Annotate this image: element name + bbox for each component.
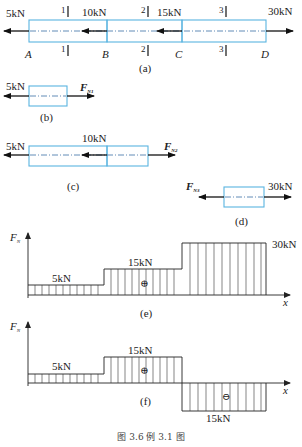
value-label: 15kN	[206, 412, 231, 424]
free-body-ab	[29, 146, 107, 166]
panel-label: (c)	[67, 180, 80, 193]
panel-label: (e)	[140, 307, 153, 320]
section-label: 3	[219, 44, 224, 54]
value-label: 5kN	[52, 360, 71, 372]
section-label: 2	[141, 44, 146, 54]
section-label: 2	[141, 5, 146, 15]
panel-label: (f)	[140, 395, 151, 408]
y-axis-label: FN	[9, 320, 21, 333]
force-label: 10kN	[82, 6, 107, 18]
free-body-bc	[107, 146, 148, 166]
value-label: 5kN	[52, 272, 71, 284]
force-label: 15kN	[157, 6, 182, 18]
panel-d: FN3 30kN (d)	[185, 180, 293, 228]
point-label-c: C	[175, 48, 183, 60]
force-label: 30kN	[268, 180, 293, 192]
point-label-a: A	[24, 48, 32, 60]
panel-c: 5kN 10kN FN2 (c)	[4, 132, 178, 193]
force-label-fn3: FN3	[185, 180, 200, 193]
section-label: 3	[219, 5, 224, 15]
positive-sign: ⊕	[140, 278, 148, 289]
panel-label: (a)	[139, 62, 152, 75]
figure-caption: 图 3.6 例 3.1 图	[117, 431, 184, 442]
panel-f-axial-force-diagram: FN x 5kN 15kN 15kN ⊕ ⊖ (f)	[9, 320, 290, 424]
positive-sign: ⊕	[140, 365, 148, 376]
panel-label: (b)	[40, 111, 53, 124]
section-label: 1	[61, 44, 66, 54]
y-axis-label: FN	[9, 231, 21, 244]
force-label: 5kN	[6, 140, 25, 152]
panel-e-axial-force-diagram: FN x 5kN 15kN 30kN ⊕ (e)	[9, 231, 297, 320]
x-axis-label: x	[282, 384, 288, 396]
force-label: 5kN	[6, 7, 25, 19]
figure-3-6: 5kN 10kN 15kN 30kN 1 1 2 2 3 3 A B C D (…	[0, 0, 302, 447]
panel-label: (d)	[235, 215, 248, 228]
force-label-fn2: FN2	[163, 140, 178, 153]
panel-b: 5kN FN1 (b)	[4, 80, 94, 124]
panel-a: 5kN 10kN 15kN 30kN 1 1 2 2 3 3 A B C D (…	[4, 5, 293, 75]
force-label: 30kN	[268, 5, 293, 17]
value-label: 15kN	[128, 344, 153, 356]
point-label-b: B	[102, 48, 109, 60]
point-label-d: D	[260, 48, 269, 60]
force-label-fn1: FN1	[79, 81, 93, 94]
force-label: 10kN	[82, 132, 107, 144]
section-label: 1	[61, 5, 66, 15]
value-label: 30kN	[272, 238, 297, 250]
force-label: 5kN	[6, 80, 25, 92]
value-label: 15kN	[128, 256, 153, 268]
x-axis-label: x	[282, 296, 288, 308]
negative-sign: ⊖	[222, 391, 230, 402]
